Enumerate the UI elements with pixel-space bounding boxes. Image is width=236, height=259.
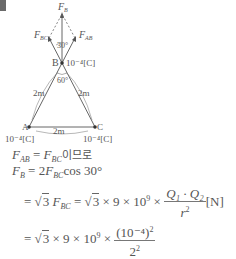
- charge-a-label: 10⁻⁴[C]: [5, 134, 34, 144]
- point-a-label: A: [22, 122, 29, 132]
- side-right-label: 2m: [78, 88, 90, 98]
- svg-text:FAB: FAB: [78, 29, 93, 41]
- force-diagram: FB FBC FAB 30° B 10⁻⁴[C] 60° 2m 2m A C 2…: [0, 0, 236, 145]
- angle-60-label: 60°: [57, 76, 68, 85]
- charge-c-label: 10⁻⁴[C]: [83, 134, 112, 144]
- equation-line-3: = √3 FBC = √3 × 9 × 109 × Q₁ · Q₂r2[N]: [24, 186, 224, 220]
- svg-text:FB: FB: [57, 1, 68, 13]
- charge-b-label: 10⁻⁴[C]: [66, 58, 95, 68]
- svg-text:FBC: FBC: [33, 29, 49, 41]
- point-b-label: B: [52, 57, 59, 68]
- point-c-label: C: [97, 122, 103, 132]
- coulomb-fraction: Q₁ · Q₂r2: [164, 186, 206, 220]
- equation-line-2: FB = 2FBCcos 30°: [12, 163, 102, 180]
- side-left-label: 2m: [33, 88, 45, 98]
- equation-line-1: FAB = FBC이므로: [12, 146, 92, 164]
- side-bottom-label: 2m: [53, 126, 65, 136]
- equation-line-4: = √3 × 9 × 109 × (10⁻⁴)222: [24, 222, 155, 259]
- angle-30-label: 30°: [57, 41, 68, 50]
- value-fraction: (10⁻⁴)222: [114, 222, 155, 259]
